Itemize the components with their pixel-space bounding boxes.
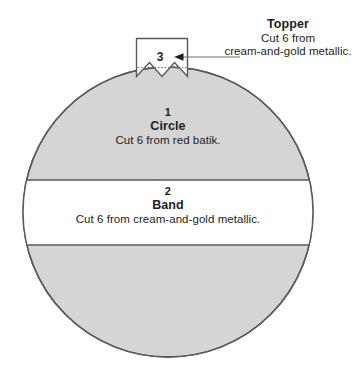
topper-description-line-2: cream-and-gold metallic. [213,45,355,59]
band-title: Band [18,198,318,213]
topper-title: Topper [213,17,355,32]
topper-callout-block: Topper Cut 6 from cream-and-gold metalli… [213,17,355,59]
pattern-diagram: 3 Topper Cut 6 from cream-and-gold metal… [0,0,355,385]
band-description: Cut 6 from cream-and-gold metallic. [18,213,318,227]
circle-number-label: 1 [38,106,298,119]
circle-description: Cut 6 from red batik. [38,134,298,148]
topper-number-label: 3 [157,50,164,64]
band-label-block: 2 Band Cut 6 from cream-and-gold metalli… [18,185,318,226]
topper-description-line-1: Cut 6 from [213,32,355,46]
band-number-label: 2 [18,185,318,198]
circle-label-block: 1 Circle Cut 6 from red batik. [38,106,298,147]
circle-title: Circle [38,119,298,134]
